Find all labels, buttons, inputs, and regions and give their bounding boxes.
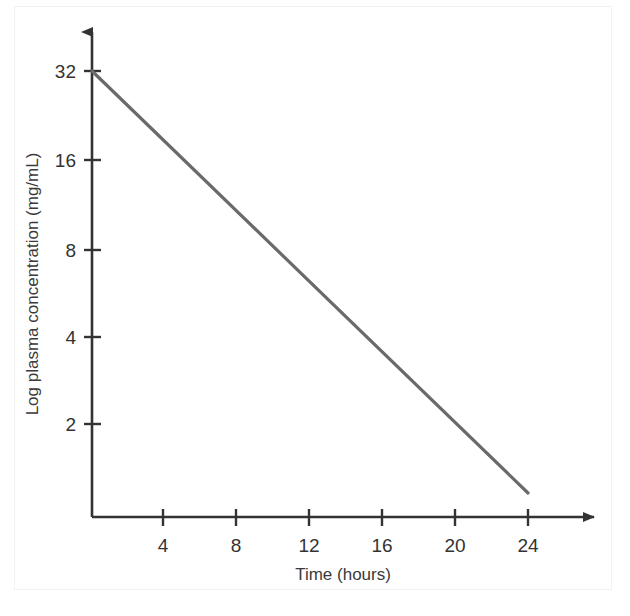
x-tick-label-12: 12 [298,535,319,556]
x-tick-label-4: 4 [158,535,169,556]
plot-area-background [92,20,605,517]
y-tick-label-8: 8 [65,240,76,261]
x-tick-label-8: 8 [231,535,242,556]
y-tick-label-16: 16 [55,150,76,171]
y-tick-label-32: 32 [55,61,76,82]
y-axis-title: Log plasma concentration (mg/mL) [23,153,42,416]
figure-root: 32 16 8 4 2 4 8 12 16 20 24 Time (hours)… [0,0,630,616]
x-tick-label-20: 20 [444,535,465,556]
semilog-line-chart: 32 16 8 4 2 4 8 12 16 20 24 Time (hours)… [0,0,630,616]
y-tick-label-2: 2 [65,414,76,435]
x-tick-label-16: 16 [371,535,392,556]
x-axis-tick-labels: 4 8 12 16 20 24 [158,535,539,556]
y-axis-tick-labels: 32 16 8 4 2 [55,61,77,435]
x-axis-title: Time (hours) [295,565,391,584]
y-tick-label-4: 4 [65,327,76,348]
x-tick-label-24: 24 [517,535,539,556]
